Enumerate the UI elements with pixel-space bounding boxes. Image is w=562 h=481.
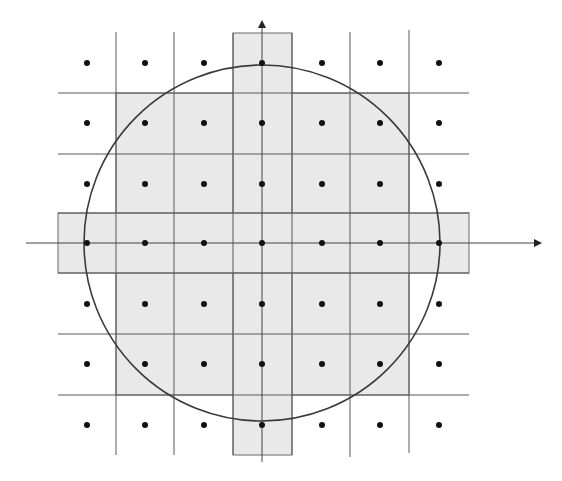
circle-rasterization-diagram <box>0 0 562 481</box>
sample-point <box>436 361 442 367</box>
sample-point <box>377 361 383 367</box>
sample-point <box>84 60 90 66</box>
sample-point <box>319 422 325 428</box>
sample-point <box>142 422 148 428</box>
sample-point <box>436 120 442 126</box>
sample-point <box>142 240 148 246</box>
sample-point <box>259 60 265 66</box>
sample-point <box>377 422 383 428</box>
sample-point <box>377 240 383 246</box>
sample-point <box>259 301 265 307</box>
sample-point <box>84 181 90 187</box>
sample-point <box>259 181 265 187</box>
sample-point <box>377 120 383 126</box>
sample-point <box>436 181 442 187</box>
sample-point <box>319 181 325 187</box>
sample-point <box>142 60 148 66</box>
sample-point <box>84 361 90 367</box>
sample-point <box>377 60 383 66</box>
sample-point <box>201 120 207 126</box>
sample-point <box>84 422 90 428</box>
sample-point <box>319 120 325 126</box>
sample-point <box>377 301 383 307</box>
sample-point <box>319 301 325 307</box>
sample-point <box>201 60 207 66</box>
sample-point <box>84 240 90 246</box>
sample-point <box>142 181 148 187</box>
sample-point <box>142 120 148 126</box>
diagram-canvas <box>0 0 562 481</box>
sample-point <box>259 422 265 428</box>
sample-point <box>319 240 325 246</box>
sample-point <box>259 240 265 246</box>
sample-point <box>201 361 207 367</box>
sample-point <box>201 301 207 307</box>
sample-point <box>142 301 148 307</box>
sample-point <box>201 422 207 428</box>
sample-point <box>259 120 265 126</box>
sample-point <box>201 240 207 246</box>
sample-point <box>436 422 442 428</box>
sample-point <box>259 361 265 367</box>
sample-point <box>436 240 442 246</box>
sample-point <box>84 301 90 307</box>
sample-point <box>319 361 325 367</box>
sample-point <box>377 181 383 187</box>
sample-point <box>201 181 207 187</box>
sample-point <box>436 60 442 66</box>
sample-point <box>436 301 442 307</box>
sample-point <box>319 60 325 66</box>
sample-point <box>84 120 90 126</box>
sample-point <box>142 361 148 367</box>
